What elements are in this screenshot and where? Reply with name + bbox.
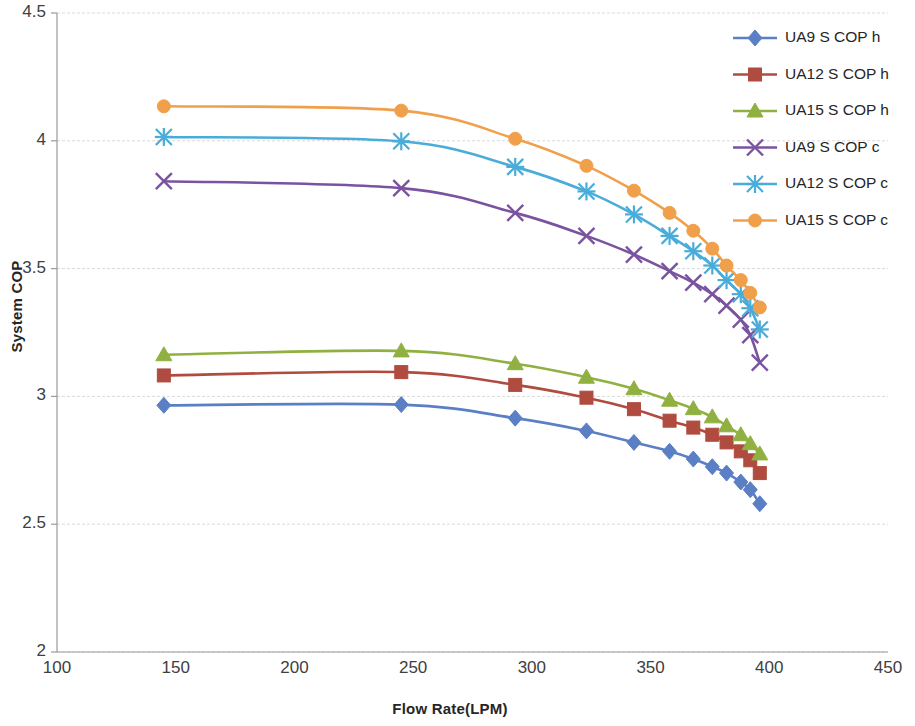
data-point-diamond (705, 459, 719, 475)
data-point-diamond (508, 410, 522, 426)
data-point-circle (706, 242, 719, 255)
data-point-circle (663, 206, 676, 219)
data-point-asterisk (703, 257, 721, 275)
x-tick-label: 350 (621, 658, 681, 678)
data-point-circle (744, 286, 757, 299)
plot-area (0, 0, 915, 726)
data-point-diamond (579, 423, 593, 439)
data-point-triangle (733, 427, 749, 441)
data-point-circle (734, 274, 747, 287)
data-point-square (627, 403, 640, 416)
data-point-square (687, 421, 700, 434)
y-tick-label: 3.5 (0, 258, 46, 278)
legend-label: UA12 S COP c (785, 174, 888, 192)
y-tick-label: 4.5 (0, 2, 46, 22)
data-point-triangle (719, 418, 735, 432)
y-tick-label: 3 (0, 385, 46, 405)
data-point-square (663, 414, 676, 427)
x-axis-title: Flow Rate(LPM) (330, 700, 570, 717)
data-point-triangle (704, 409, 720, 423)
legend-label: UA9 S COP h (785, 28, 880, 46)
data-point-circle (580, 159, 593, 172)
y-tick-label: 2 (0, 641, 46, 661)
data-point-asterisk (751, 320, 769, 338)
series-1 (157, 366, 766, 480)
x-tick-label: 250 (383, 658, 443, 678)
data-point-x (685, 275, 701, 291)
x-tick-label: 300 (502, 658, 562, 678)
data-point-x (719, 298, 735, 314)
x-tick-label: 200 (264, 658, 324, 678)
data-point-asterisk (684, 242, 702, 260)
data-point-x (578, 228, 594, 244)
data-point-square (509, 378, 522, 391)
data-point-circle (720, 259, 733, 272)
data-point-circle (157, 100, 170, 113)
data-point-asterisk (661, 227, 679, 245)
data-point-diamond (748, 30, 762, 46)
data-point-asterisk (392, 132, 410, 150)
data-point-x (507, 205, 523, 221)
legend-label: UA15 S COP h (785, 101, 889, 119)
legend-markers (733, 30, 777, 227)
data-point-diamond (627, 434, 641, 450)
legend-label: UA12 S COP h (785, 65, 889, 83)
data-point-diamond (157, 397, 171, 413)
data-point-square (720, 436, 733, 449)
data-point-asterisk (155, 128, 173, 146)
data-series-group (155, 100, 769, 512)
y-tick-label: 4 (0, 130, 46, 150)
series-5 (157, 100, 766, 314)
data-point-square (580, 391, 593, 404)
data-point-x (704, 286, 720, 302)
legend-label: UA15 S COP c (785, 211, 888, 229)
data-point-circle (395, 104, 408, 117)
series-2 (156, 343, 768, 460)
data-point-circle (509, 132, 522, 145)
data-point-asterisk (506, 158, 524, 176)
x-tick-label: 400 (739, 658, 799, 678)
data-point-circle (753, 301, 766, 314)
data-point-square (706, 428, 719, 441)
data-point-diamond (663, 443, 677, 459)
data-point-asterisk (625, 205, 643, 223)
y-tick-label: 2.5 (0, 513, 46, 533)
legend-label: UA9 S COP c (785, 138, 879, 156)
x-tick-label: 100 (27, 658, 87, 678)
data-point-diamond (686, 451, 700, 467)
series-4 (155, 128, 769, 338)
data-point-square (753, 467, 766, 480)
data-point-circle (749, 214, 762, 227)
data-point-x (733, 312, 749, 328)
data-point-circle (627, 184, 640, 197)
data-point-square (395, 366, 408, 379)
data-point-asterisk (746, 175, 764, 193)
data-point-diamond (394, 397, 408, 413)
data-point-diamond (720, 465, 734, 481)
data-point-x (752, 355, 768, 371)
data-point-circle (687, 224, 700, 237)
data-point-x (626, 247, 642, 263)
data-point-square (749, 68, 762, 81)
data-point-asterisk (577, 182, 595, 200)
system-cop-chart: System COP Flow Rate(LPM) 10015020025030… (0, 0, 915, 726)
data-point-square (157, 369, 170, 382)
x-tick-label: 150 (146, 658, 206, 678)
series-3 (156, 173, 768, 370)
data-point-x (662, 263, 678, 279)
x-tick-label: 450 (858, 658, 915, 678)
